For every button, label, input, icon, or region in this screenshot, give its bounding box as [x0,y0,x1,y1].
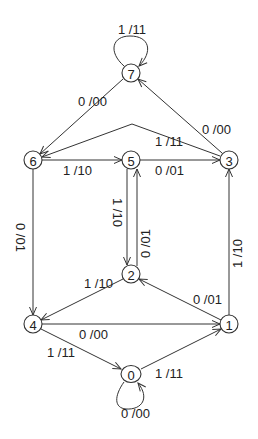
state-label-3: 3 [225,154,232,169]
edge-label-5-2: 1 /10 [110,198,125,227]
edge-0-1 [141,329,221,369]
state-diagram: 1 /11 0 /00 0 /00 1 /11 1 /10 0 /01 0 /0… [0,0,258,439]
edge-0-0 [117,382,144,409]
edge-label-7-6: 0 /00 [78,94,107,109]
state-node-0: 0 [121,366,141,383]
state-node-1: 1 [220,315,238,333]
state-node-6: 6 [24,151,42,169]
state-label-4: 4 [29,318,36,333]
nodes: 7 6 5 3 2 4 1 0 [24,64,238,383]
state-label-1: 1 [225,318,232,333]
edge-label-0-1: 1 /11 [155,366,183,381]
edge-label-2-5: 0 /01 [138,229,153,258]
edge-label-6-5: 1 /10 [63,163,92,178]
state-node-7: 7 [122,64,140,82]
edge-label-5-3: 0 /01 [155,163,184,178]
state-node-4: 4 [24,315,42,333]
state-node-5: 5 [122,151,140,169]
edge-label-3-6: 1 /11 [155,134,183,149]
edge-label-6-4: 0 /01 [13,223,28,252]
state-label-0: 0 [127,368,134,383]
edge-label-1-3: 1 /10 [230,239,245,268]
edge-label-1-2: 0 /01 [193,292,222,307]
edge-label-4-1: 0 /00 [79,327,108,342]
state-label-6: 6 [29,154,36,169]
edge-label-4-0: 1 /11 [47,345,75,360]
state-label-7: 7 [127,67,134,82]
state-label-5: 5 [127,154,134,169]
edge-label-3-7: 0 /00 [202,122,231,137]
state-node-3: 3 [220,151,238,169]
state-node-2: 2 [122,265,140,283]
edge-label-7-7: 1 /11 [118,22,146,37]
state-label-2: 2 [127,268,134,283]
edge-7-7 [114,36,148,66]
edge-label-0-0: 0 /00 [121,406,150,421]
edge-label-2-4: 1 /10 [84,276,113,291]
